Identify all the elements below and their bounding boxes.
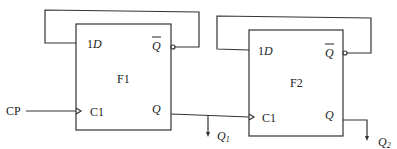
f1-qbar-bubble-icon <box>171 45 175 49</box>
q2-output-label: Q2 <box>378 135 391 149</box>
q1-output-label: Q1 <box>217 129 230 144</box>
f2-clk-label: C1 <box>262 111 276 125</box>
cp-label: CP <box>6 104 21 118</box>
q2-arrow-icon <box>365 136 369 141</box>
f1-q-label: Q <box>152 102 161 116</box>
f1-q-to-f2-clk-wire <box>171 114 249 117</box>
q1-arrow-icon <box>206 132 210 137</box>
f1-d-label: 1D <box>87 37 102 51</box>
f2-qbar-bubble-icon <box>343 51 347 55</box>
f1-qbar-label: Q <box>152 39 161 53</box>
f1-name-label: F1 <box>117 72 130 86</box>
f2-d-label: 1D <box>258 44 273 58</box>
flip-flop-circuit-diagram: CP 1D Q F1 C1 Q 1D Q F2 C1 Q Q1 Q2 <box>0 0 397 149</box>
f1-clk-label: C1 <box>90 105 104 119</box>
f2-q-output-wire <box>343 120 367 138</box>
f2-name-label: F2 <box>290 76 303 90</box>
f2-q-label: Q <box>325 108 334 122</box>
f2-qbar-label: Q <box>325 46 334 60</box>
